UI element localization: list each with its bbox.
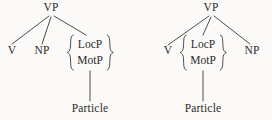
syntax-tree-right: VP V LocP MotP NP Particle [136,0,272,120]
brace-open-icon [66,34,74,71]
braceset-item-motp: MotP [190,55,216,67]
node-v: V [8,45,17,57]
syntax-tree-left: VP V NP LocP MotP Particle [0,0,136,120]
brace-close-icon [106,34,114,71]
node-particle: Particle [72,103,109,115]
brace-close-icon [219,34,227,71]
node-particle: Particle [185,103,222,115]
brace-open-icon [179,34,187,71]
braceset-item-locp: LocP [190,39,216,51]
braceset-locp-motp: LocP MotP [179,34,227,71]
node-v: V [164,45,173,57]
braceset-item-locp: LocP [77,39,103,51]
braceset-items: LocP MotP [75,34,105,71]
node-np: NP [34,45,49,57]
figure-canvas: VP V NP LocP MotP Particle [0,0,272,120]
braceset-locp-motp: LocP MotP [66,34,114,71]
braceset-item-motp: MotP [77,55,103,67]
node-vp: VP [43,2,58,14]
node-np: NP [244,45,259,57]
edge-vp-to-np [42,17,51,44]
braceset-items: LocP MotP [188,34,218,71]
edge-vp-to-braceset [54,16,86,35]
node-vp: VP [203,2,218,14]
